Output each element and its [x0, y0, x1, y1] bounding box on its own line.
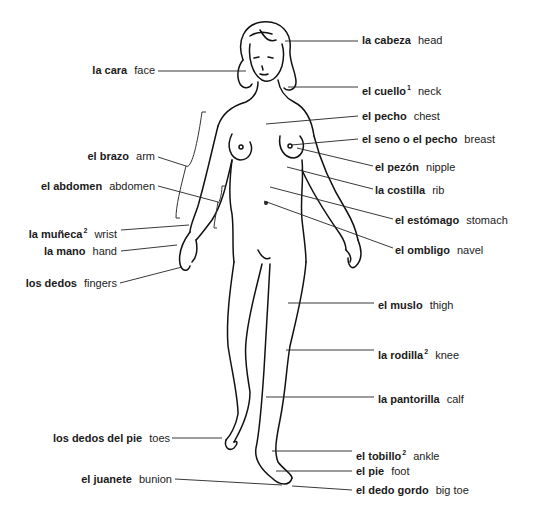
spanish-term: la costilla [375, 184, 425, 196]
english-term: face [134, 64, 155, 76]
leader-line-el-pecho [266, 116, 358, 124]
english-term: arm [136, 150, 155, 162]
footnote-marker: 2 [424, 348, 428, 355]
english-term: big toe [436, 484, 469, 496]
label-la-muneca: la muñeca2wrist [29, 224, 117, 241]
spanish-term: la cara [92, 64, 127, 76]
english-term: calf [447, 393, 464, 405]
label-la-cara: la caraface [92, 64, 155, 77]
english-term: chest [414, 110, 440, 122]
english-term: head [418, 34, 442, 46]
spanish-term: el juanete [81, 473, 132, 485]
footnote-marker: 1 [407, 84, 411, 91]
english-term: neck [418, 85, 441, 97]
anatomy-diagram: la cabezaheadla carafaceel cuello1neckel… [0, 0, 537, 519]
english-term: foot [391, 465, 409, 477]
spanish-term: los dedos del pie [53, 432, 142, 444]
spanish-term: el pie [356, 465, 384, 477]
english-term: stomach [466, 214, 508, 226]
leader-line-la-costilla [287, 167, 373, 189]
label-la-costilla: la costillarib [375, 184, 444, 197]
english-term: thigh [430, 299, 454, 311]
leader-line-el-pezon [297, 148, 373, 166]
label-el-brazo: el brazoarm [87, 150, 155, 163]
spanish-term: la pantorilla [378, 393, 440, 405]
english-term: nipple [426, 161, 455, 173]
label-el-ombligo: el ombligonavel [395, 244, 483, 257]
spanish-term: el cuello [362, 85, 406, 97]
spanish-term: el seno o el pecho [362, 133, 457, 145]
leader-line-el-brazo [158, 157, 186, 166]
spanish-term: el pecho [362, 110, 407, 122]
footnote-marker: 2 [83, 227, 87, 234]
english-term: hand [93, 245, 117, 257]
spanish-term: el brazo [87, 150, 129, 162]
label-los-dedos-del-pie: los dedos del pietoes [53, 432, 170, 445]
english-term: bunion [139, 473, 172, 485]
english-term: fingers [84, 277, 117, 289]
spanish-term: la mano [44, 245, 86, 257]
spanish-term: los dedos [26, 277, 77, 289]
spanish-term: el tobillo [356, 450, 401, 462]
label-el-seno: el seno o el pechobreast [362, 133, 495, 146]
leader-line-el-dedo-gordo [292, 486, 352, 490]
english-term: breast [464, 133, 495, 145]
label-el-muslo: el muslothigh [378, 299, 453, 312]
spanish-term: el estómago [395, 214, 459, 226]
spanish-term: el pezón [375, 161, 419, 173]
leader-line-el-juanete [175, 479, 282, 485]
leader-line-el-seno [291, 139, 358, 145]
label-el-cuello: el cuello1neck [362, 81, 441, 98]
english-term: abdomen [109, 180, 155, 192]
spanish-term: el dedo gordo [356, 484, 429, 496]
english-term: ankle [413, 450, 439, 462]
leader-line-el-ombligo [264, 201, 393, 248]
label-los-dedos: los dedosfingers [26, 277, 117, 290]
footnote-marker: 2 [402, 449, 406, 456]
leader-line-la-mano [121, 245, 177, 251]
label-el-dedo-gordo: el dedo gordobig toe [356, 484, 469, 497]
spanish-term: la cabeza [362, 34, 411, 46]
label-la-rodilla: la rodilla2knee [378, 345, 459, 362]
spanish-term: la muñeca [29, 228, 83, 240]
label-la-mano: la manohand [44, 245, 117, 258]
label-el-pecho: el pechochest [362, 110, 440, 123]
english-term: knee [435, 349, 459, 361]
spanish-term: el muslo [378, 299, 423, 311]
label-el-juanete: el juanetebunion [81, 473, 172, 486]
leader-line-los-dedos [120, 267, 182, 283]
label-el-estomago: el estómagostomach [395, 214, 508, 227]
english-term: wrist [94, 228, 117, 240]
spanish-term: el ombligo [395, 244, 450, 256]
leader-line-el-abdomen [158, 186, 218, 202]
label-la-pantorrilla: la pantorillacalf [378, 393, 464, 406]
english-term: rib [432, 184, 444, 196]
english-term: navel [457, 244, 483, 256]
spanish-term: la rodilla [378, 349, 423, 361]
label-el-pezon: el pezónnipple [375, 161, 455, 174]
english-term: toes [149, 432, 170, 444]
leader-line-la-muneca [121, 225, 189, 230]
label-el-abdomen: el abdomenabdomen [41, 180, 155, 193]
label-el-tobillo: el tobillo2ankle [356, 446, 439, 463]
label-la-cabeza: la cabezahead [362, 34, 442, 47]
label-el-pie: el piefoot [356, 465, 409, 478]
spanish-term: el abdomen [41, 180, 102, 192]
